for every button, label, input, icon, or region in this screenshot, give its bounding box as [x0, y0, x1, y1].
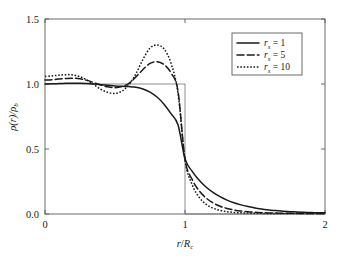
x-axis-title: r/Rc — [177, 238, 194, 251]
svg-text:ρ(r)/ρb: ρ(r)/ρb — [7, 103, 20, 132]
chart-figure: 0120.00.51.01.5r/Rcρ(r)/ρbrs = 1rs = 5rs… — [0, 0, 343, 259]
x-tick-label: 2 — [322, 219, 327, 230]
chart-svg: 0120.00.51.01.5r/Rcρ(r)/ρbrs = 1rs = 5rs… — [0, 0, 343, 259]
y-tick-label: 1.0 — [26, 79, 39, 90]
y-tick-label: 0.0 — [26, 209, 39, 220]
y-tick-label: 1.5 — [26, 14, 39, 25]
chart-legend: rs = 1rs = 5rs = 10 — [232, 33, 302, 75]
x-tick-label: 1 — [182, 219, 187, 230]
step-reference-curve — [45, 84, 325, 214]
x-tick-label: 0 — [42, 219, 47, 230]
svg-text:r/Rc: r/Rc — [177, 238, 194, 251]
y-tick-label: 0.5 — [26, 144, 39, 155]
y-axis-title: ρ(r)/ρb — [7, 103, 20, 132]
